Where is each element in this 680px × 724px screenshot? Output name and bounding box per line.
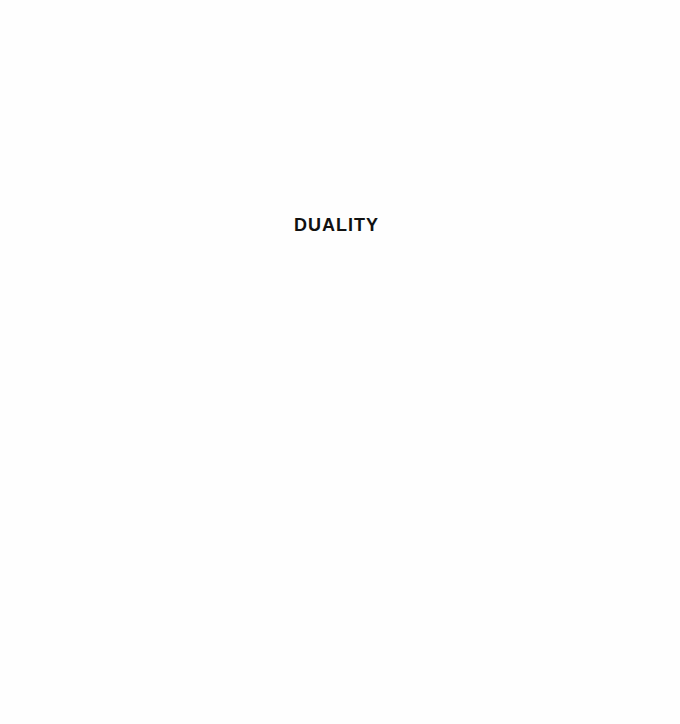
document-page: DUALITY <box>0 0 680 724</box>
section-title: DUALITY <box>0 213 673 237</box>
